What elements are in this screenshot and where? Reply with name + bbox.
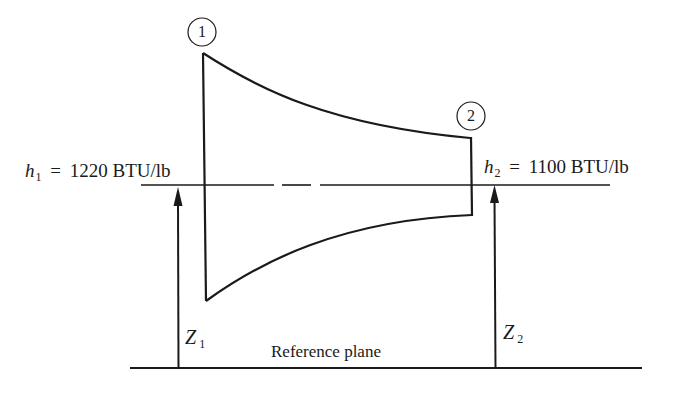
h2-value: 1100 [529,156,566,177]
inlet-edge [203,53,206,301]
h2-equals: = [509,156,520,177]
z2-arrow [490,185,499,368]
z2-subscript: 2 [517,332,523,346]
h1-unit: BTU/lb [112,160,170,181]
state-point-1-label: 1 [188,24,216,40]
h1-value: 1220 [70,160,108,181]
z1-subscript: 1 [199,337,205,351]
nozzle-diagram [0,0,682,398]
enthalpy-2-label: h2 = 1100 BTU/lb [484,157,629,176]
h2-unit: BTU/lb [571,156,629,177]
reference-plane-label: Reference plane [271,343,381,360]
elevation-1-label: Z1 [185,327,205,347]
h1-symbol: h [25,160,35,181]
h1-subscript: 1 [36,170,42,184]
h1-equals: = [50,160,61,181]
enthalpy-1-label: h1 = 1220 BTU/lb [25,161,171,180]
h2-symbol: h [484,156,494,177]
z1-arrow [174,187,183,368]
nozzle-outline [203,53,472,301]
outlet-edge [471,137,472,216]
state-point-2-label: 2 [457,108,485,124]
bottom-wall [206,215,472,301]
z1-symbol: Z [185,326,196,348]
elevation-2-label: Z2 [503,322,523,342]
h2-subscript: 2 [495,166,501,180]
top-wall [203,53,470,138]
z2-symbol: Z [503,321,514,343]
